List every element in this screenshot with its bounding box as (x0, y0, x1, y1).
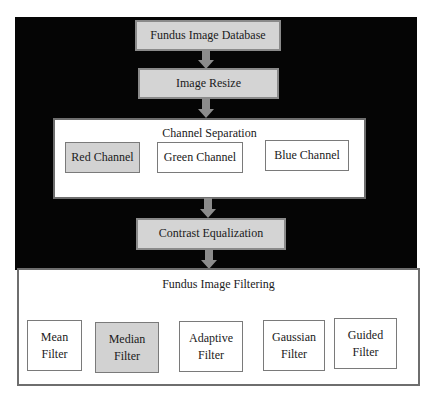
channel-label: Green Channel (164, 149, 236, 165)
channel-label: Red Channel (71, 149, 133, 165)
filter-label: Filter (272, 346, 316, 362)
filter-label: Guided (348, 327, 383, 343)
filter-label: Filter (189, 347, 233, 363)
guided-filter-box: GuidedFilter (334, 318, 397, 369)
fundus-image-filtering-panel: Fundus Image Filtering MeanFilter Median… (17, 268, 420, 386)
arrow-down-icon (201, 249, 217, 269)
filter-label: Filter (41, 346, 68, 362)
green-channel-box: Green Channel (157, 142, 243, 173)
step-label: Contrast Equalization (159, 227, 263, 241)
panel-title: Channel Separation (55, 126, 364, 141)
step-image-resize: Image Resize (138, 68, 279, 99)
red-channel-box: Red Channel (65, 142, 140, 173)
filter-label: Gaussian (272, 329, 316, 345)
panel-title: Fundus Image Filtering (19, 277, 418, 292)
channel-label: Blue Channel (274, 147, 340, 163)
filter-label: Mean (41, 329, 68, 345)
mean-filter-box: MeanFilter (27, 320, 82, 371)
channel-separation-panel: Channel Separation Red Channel Green Cha… (53, 118, 366, 199)
step-fundus-image-database: Fundus Image Database (135, 20, 281, 51)
arrow-down-icon (198, 50, 214, 69)
step-label: Fundus Image Database (150, 29, 265, 43)
filter-label: Median (109, 331, 146, 347)
median-filter-box: MedianFilter (95, 322, 159, 373)
filter-label: Adaptive (189, 330, 233, 346)
arrow-down-icon (198, 98, 214, 118)
filter-label: Filter (109, 348, 146, 364)
filter-label: Filter (348, 344, 383, 360)
gaussian-filter-box: GaussianFilter (263, 320, 325, 371)
blue-channel-box: Blue Channel (265, 140, 349, 171)
arrow-down-icon (200, 198, 216, 218)
step-label: Image Resize (176, 77, 241, 91)
step-contrast-equalization: Contrast Equalization (136, 218, 286, 250)
adaptive-filter-box: AdaptiveFilter (179, 321, 243, 372)
